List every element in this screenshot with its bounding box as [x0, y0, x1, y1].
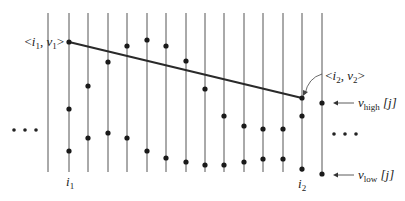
v-high-arrowhead-icon: [333, 101, 338, 106]
i1-label: i1: [66, 174, 74, 191]
right-ellipsis: [332, 132, 358, 136]
data-point: [241, 123, 246, 128]
data-point: [85, 83, 90, 88]
v-low-label: vlow [j]: [358, 167, 394, 184]
data-point: [280, 156, 285, 161]
line-segment-diagram: <i1, v1> <i2, v2> i1 i2 vhigh [j] vlow […: [0, 0, 405, 201]
data-point: [260, 156, 265, 161]
data-point: [299, 166, 304, 171]
data-point: [202, 86, 207, 91]
data-point: [319, 171, 324, 176]
data-point: [221, 162, 226, 167]
start-point-label: <i1, v1>: [24, 34, 64, 51]
data-point: [124, 43, 129, 48]
data-point: [66, 39, 71, 44]
left-ellipsis: [12, 128, 38, 132]
data-point: [260, 126, 265, 131]
end-point-label: <i2, v2>: [325, 68, 365, 85]
data-point: [202, 162, 207, 167]
data-point: [163, 43, 168, 48]
data-point: [66, 148, 71, 153]
data-point: [183, 58, 188, 63]
i2-label: i2: [298, 176, 306, 193]
data-point: [299, 113, 304, 118]
data-point: [66, 106, 71, 111]
data-point: [85, 135, 90, 140]
data-point: [144, 148, 149, 153]
data-points: [66, 37, 324, 176]
v-low-arrowhead-icon: [333, 173, 338, 178]
data-point: [221, 113, 226, 118]
data-point: [280, 126, 285, 131]
data-point: [163, 155, 168, 160]
data-point: [319, 100, 324, 105]
data-point: [183, 159, 188, 164]
data-point: [124, 135, 129, 140]
data-point: [105, 59, 110, 64]
data-point: [241, 159, 246, 164]
data-point: [144, 37, 149, 42]
data-point: [299, 95, 304, 100]
data-point: [105, 130, 110, 135]
v-high-label: vhigh [j]: [358, 95, 397, 112]
end-point-arrow: [305, 74, 322, 94]
